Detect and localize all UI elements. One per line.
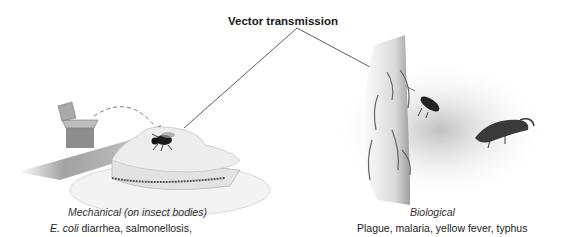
biological-scene <box>330 35 550 205</box>
mechanical-examples: E. coli diarrhea, salmonellosis, <box>50 222 192 234</box>
ecoli-italic: E. coli <box>50 222 79 234</box>
mechanical-label: Mechanical (on insect bodies) <box>68 206 207 218</box>
diagram-title: Vector transmission <box>228 15 338 27</box>
biological-examples: Plague, malaria, yellow fever, typhus <box>357 222 527 234</box>
trash-can-icon <box>58 102 98 148</box>
vector-transmission-illustration <box>0 0 566 237</box>
mechanical-examples-rest: diarrhea, salmonellosis, <box>79 222 192 234</box>
biological-label: Biological <box>410 206 455 218</box>
sandwich-icon <box>112 127 240 190</box>
mechanical-scene <box>18 102 270 216</box>
